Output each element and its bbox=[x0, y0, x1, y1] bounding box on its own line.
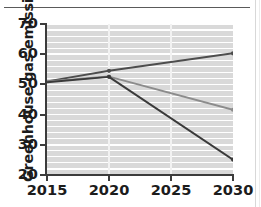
series-line-pledges bbox=[47, 77, 233, 110]
y-tick bbox=[40, 53, 46, 55]
x-tick-label: 2015 bbox=[17, 181, 77, 198]
y-tick bbox=[40, 83, 46, 85]
chart-page: Greenhouse gas emissions (Gt) 7060504030… bbox=[0, 0, 261, 207]
series-line-current-policies bbox=[47, 53, 233, 81]
data-point-marker bbox=[107, 75, 111, 79]
plot-area bbox=[47, 24, 233, 175]
y-tick-label: 20 bbox=[4, 165, 38, 182]
line-chart-figure: Greenhouse gas emissions (Gt) 7060504030… bbox=[0, 0, 255, 207]
x-axis-spine bbox=[45, 174, 234, 176]
x-tick-label: 2020 bbox=[79, 181, 139, 198]
page-right-edge-outer bbox=[259, 0, 260, 207]
y-tick-label: 60 bbox=[4, 44, 38, 61]
y-tick bbox=[40, 144, 46, 146]
plot-svg bbox=[47, 24, 233, 175]
x-tick-label: 2030 bbox=[203, 181, 261, 198]
y-axis-tick-labels: 706050403020 bbox=[0, 0, 38, 207]
data-point-marker bbox=[107, 69, 111, 73]
page-right-edge bbox=[255, 0, 256, 207]
y-tick bbox=[40, 23, 46, 25]
gridlines bbox=[47, 24, 233, 175]
y-tick-label: 40 bbox=[4, 105, 38, 122]
x-tick-label: 2025 bbox=[141, 181, 201, 198]
y-axis-spine bbox=[45, 23, 47, 176]
series-line-below-2c-pathway bbox=[47, 77, 233, 160]
y-tick-label: 50 bbox=[4, 74, 38, 91]
y-tick bbox=[40, 114, 46, 116]
y-tick-label: 30 bbox=[4, 135, 38, 152]
y-tick-label: 70 bbox=[4, 14, 38, 31]
